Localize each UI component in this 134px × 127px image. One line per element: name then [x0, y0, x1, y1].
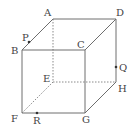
label-Q: Q [119, 62, 127, 73]
label-G: G [82, 114, 90, 125]
edge-EF [22, 82, 53, 113]
point-Q [115, 66, 118, 69]
edge-GH [85, 82, 116, 113]
label-H: H [118, 83, 127, 94]
label-E: E [43, 73, 50, 84]
label-F: F [11, 113, 18, 124]
label-D: D [116, 7, 124, 18]
label-P: P [22, 32, 29, 43]
label-B: B [11, 45, 18, 56]
label-R: R [33, 115, 41, 126]
edge-DC [85, 19, 116, 50]
label-C: C [77, 39, 85, 50]
label-A: A [43, 7, 52, 18]
point-R [36, 112, 39, 115]
cube-diagram: A D B C E H F G P Q R [0, 0, 134, 127]
